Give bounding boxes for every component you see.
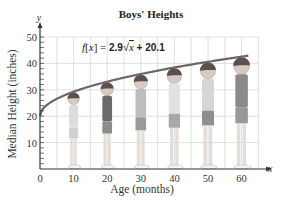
y-tick-label: 50	[27, 32, 38, 43]
x-tick-label: 60	[236, 173, 247, 184]
boy-40-months	[167, 68, 183, 169]
y-tick-label: 30	[27, 85, 38, 96]
boy-20-months	[101, 82, 115, 169]
chart-title: Boys' Heights	[119, 8, 184, 20]
x-axis-label: Age (months)	[110, 183, 174, 196]
chart: Boys' Heights 01020304050601020304050 y …	[0, 0, 282, 207]
boy-30-months	[134, 75, 149, 169]
x-axis-variable: x	[267, 163, 273, 174]
boy-60-months	[233, 57, 251, 169]
x-tick-label: 0	[37, 173, 42, 184]
boy-50-months	[200, 62, 217, 169]
boy-10-months	[68, 92, 81, 169]
x-tick-label: 50	[203, 173, 214, 184]
x-tick-label: 10	[68, 173, 79, 184]
y-axis-variable: y	[36, 12, 42, 23]
y-tick-label: 10	[27, 138, 38, 149]
y-tick-label: 40	[27, 58, 38, 69]
y-tick-label: 20	[27, 111, 38, 122]
function-annotation: f[x] = 2.9√x + 20.1	[82, 41, 165, 53]
y-axis-label: Median Height (inches)	[6, 49, 19, 158]
boy-illustrations	[68, 57, 252, 169]
